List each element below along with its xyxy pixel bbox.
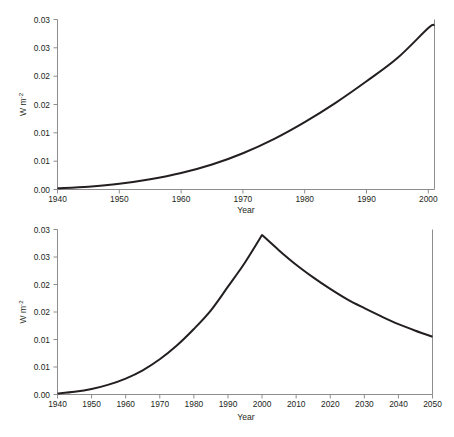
bottom-xtick-label-2040: 2040 (389, 399, 408, 409)
bottom-xtick-label-1940: 1940 (48, 399, 67, 409)
top-xtick-label-1950: 1950 (110, 194, 129, 204)
bottom-xtick-label-2050: 2050 (423, 399, 442, 409)
bottom-axis-spines (58, 230, 433, 395)
top-x-tickmarks (58, 190, 429, 194)
bottom-xtick-label-2030: 2030 (355, 399, 374, 409)
bottom-yaxis-title-exponent: -2 (17, 300, 24, 306)
svg-text:W m-2: W m-2 (17, 300, 28, 324)
top-axis-spines (58, 20, 435, 190)
bottom-xtick-label-1990: 1990 (219, 399, 238, 409)
bottom-xtick-label-1960: 1960 (116, 399, 135, 409)
top-xtick-label-1960: 1960 (172, 194, 191, 204)
bottom-xaxis-title: Year (237, 412, 255, 422)
top-ytick-label-5: 0.01 (34, 156, 51, 166)
top-data-curve (58, 25, 435, 189)
top-ytick-label-2: 0.02 (34, 71, 51, 81)
top-xtick-label-2000: 2000 (419, 194, 438, 204)
bottom-ytick-label-4: 0.01 (34, 335, 51, 345)
bottom-ytick-label-5: 0.01 (34, 362, 51, 372)
chart-panel-top: 0.03 0.03 0.02 0.02 0.01 0.01 0.00 1940 … (0, 0, 454, 215)
top-ytick-label-4: 0.01 (34, 128, 51, 138)
bottom-y-tickmarks (54, 230, 58, 395)
bottom-xtick-label-2020: 2020 (321, 399, 340, 409)
bottom-data-curve (58, 235, 433, 393)
svg-text:W m-2: W m-2 (17, 92, 28, 116)
top-ytick-label-3: 0.02 (34, 100, 51, 110)
top-y-tickmarks (54, 20, 58, 190)
top-xtick-label-1980: 1980 (295, 194, 314, 204)
top-xtick-label-1990: 1990 (357, 194, 376, 204)
chart-panel-bottom: 0.03 0.03 0.02 0.02 0.01 0.01 0.00 1940 … (0, 215, 454, 437)
bottom-xtick-label-1980: 1980 (185, 399, 204, 409)
bottom-ytick-label-2: 0.02 (34, 280, 51, 290)
top-xtick-label-1940: 1940 (48, 194, 67, 204)
top-ytick-label-1: 0.03 (34, 43, 51, 53)
bottom-ytick-label-0: 0.03 (34, 225, 51, 235)
bottom-yaxis-title: W m-2 (17, 300, 28, 324)
top-chart-svg: 0.03 0.03 0.02 0.02 0.01 0.01 0.00 1940 … (0, 0, 454, 215)
bottom-chart-svg: 0.03 0.03 0.02 0.02 0.01 0.01 0.00 1940 … (0, 215, 454, 437)
bottom-xtick-label-2000: 2000 (253, 399, 272, 409)
top-xaxis-title: Year (237, 205, 255, 215)
bottom-ytick-label-3: 0.02 (34, 307, 51, 317)
top-xtick-label-1970: 1970 (234, 194, 253, 204)
bottom-x-tickmarks (58, 395, 433, 399)
figure-container: 0.03 0.03 0.02 0.02 0.01 0.01 0.00 1940 … (0, 0, 454, 437)
bottom-yaxis-title-main: W m (18, 306, 28, 324)
top-yaxis-title-exponent: -2 (17, 92, 24, 98)
bottom-xtick-label-2010: 2010 (287, 399, 306, 409)
bottom-xtick-label-1970: 1970 (150, 399, 169, 409)
top-ytick-label-6: 0.00 (34, 185, 51, 195)
bottom-ytick-label-1: 0.03 (34, 252, 51, 262)
top-yaxis-title-main: W m (18, 98, 28, 116)
top-ytick-label-0: 0.03 (34, 15, 51, 25)
bottom-xtick-label-1950: 1950 (82, 399, 101, 409)
top-yaxis-title: W m-2 (17, 92, 28, 116)
bottom-ytick-label-6: 0.00 (34, 390, 51, 400)
